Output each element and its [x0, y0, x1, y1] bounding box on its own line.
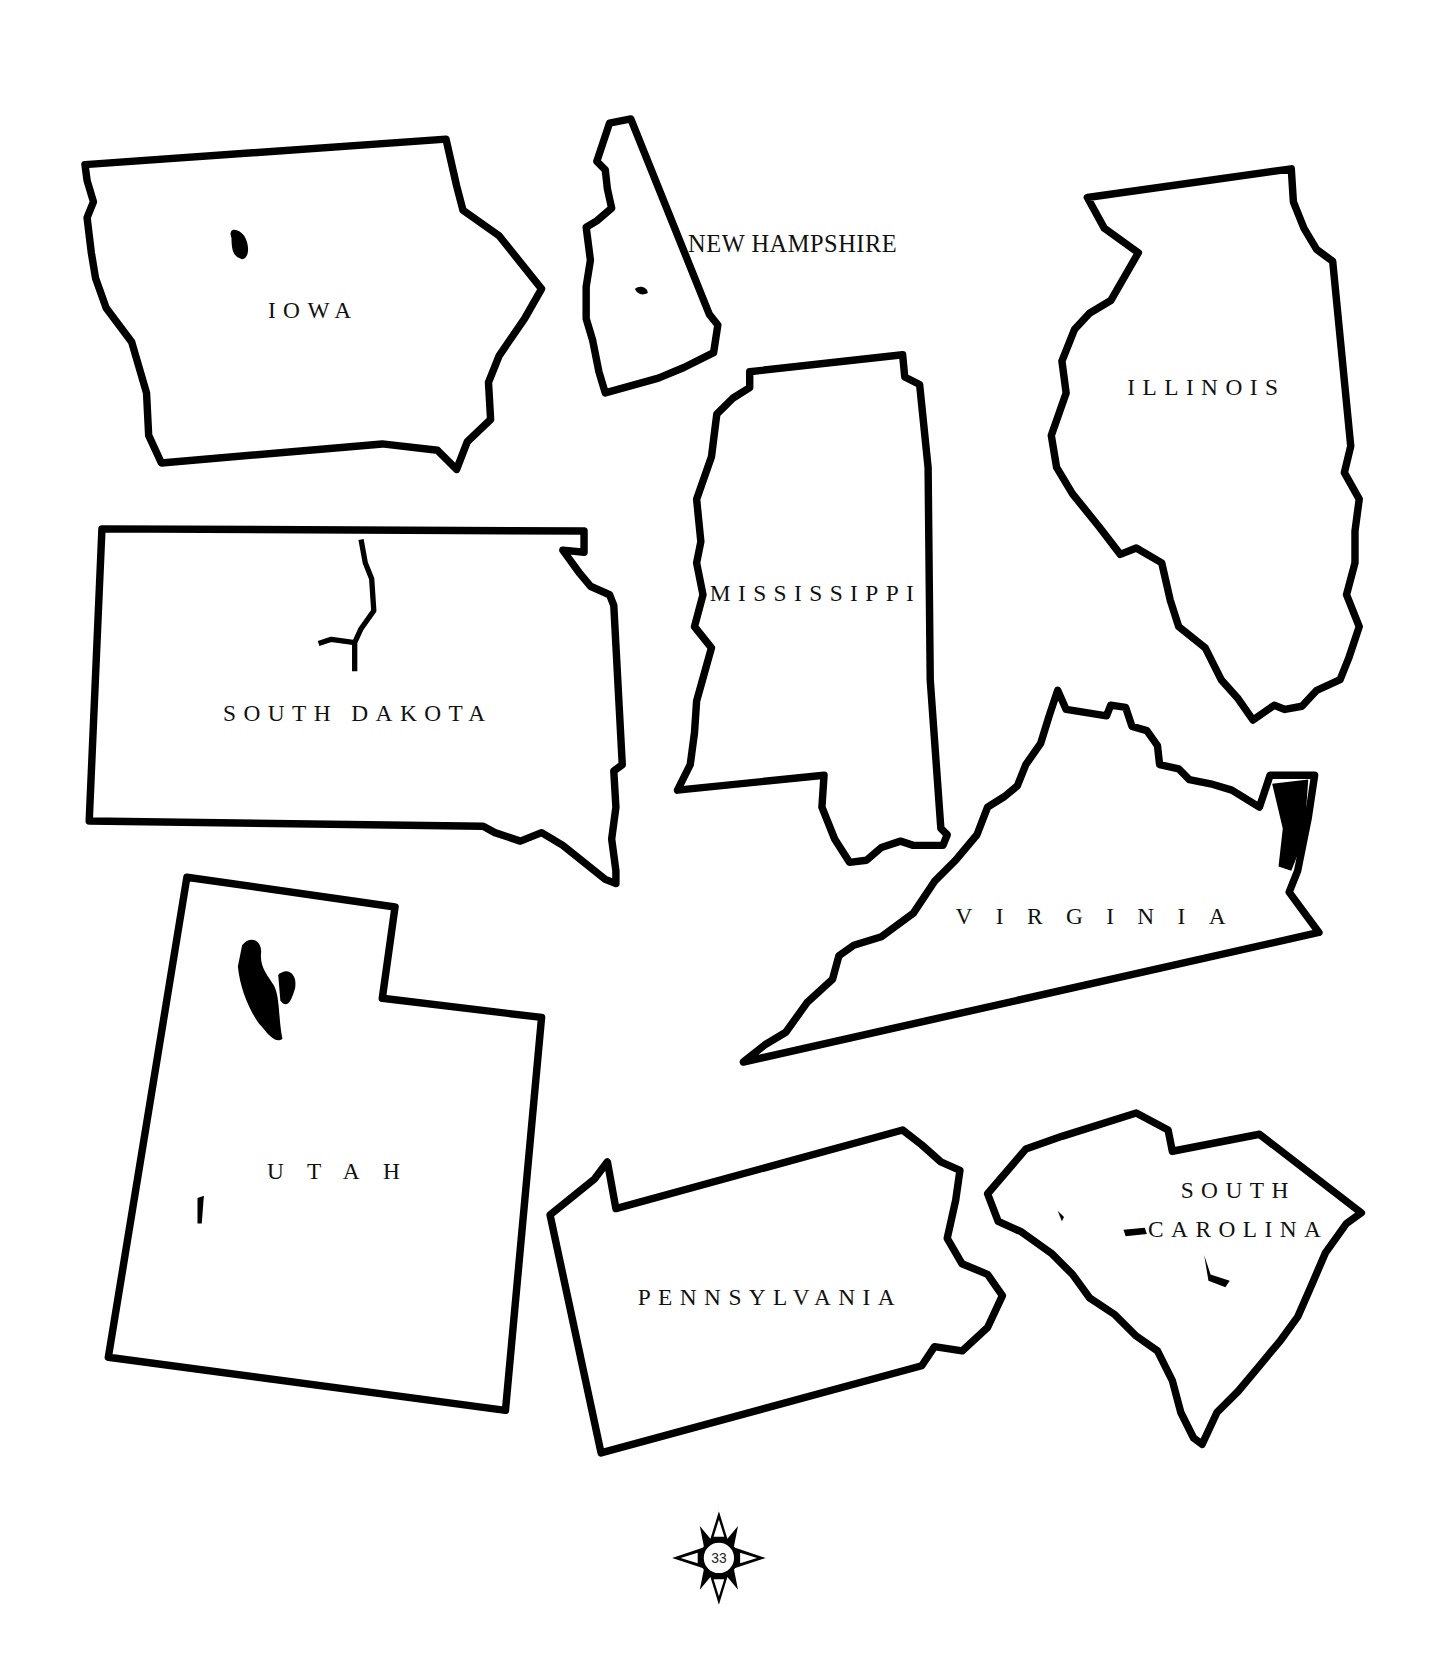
state-mississippi: MISSISSIPPI [677, 355, 947, 863]
state-utah: UTAH [108, 877, 541, 1410]
label-pennsylvania: PENNSYLVANIA [638, 1284, 902, 1310]
state-pennsylvania: PENNSYLVANIA [550, 1130, 1002, 1453]
label-virginia: VIRGINIA [956, 903, 1249, 929]
label-south-carolina-line1: SOUTH [1181, 1177, 1296, 1203]
state-outline-map: IOWA NEW HAMPSHIRE ILLINOIS MISSISSIPPI … [0, 0, 1441, 1661]
label-utah: UTAH [267, 1158, 423, 1184]
state-south-carolina: SOUTH CAROLINA [988, 1113, 1362, 1444]
label-new-hampshire: NEW HAMPSHIRE [688, 230, 897, 257]
label-iowa: IOWA [268, 297, 359, 323]
state-illinois: ILLINOIS [1051, 169, 1359, 720]
compass-rose-icon: 33 [672, 1511, 765, 1604]
label-south-carolina-line2: CAROLINA [1148, 1216, 1328, 1242]
state-south-dakota: SOUTH DAKOTA [89, 529, 622, 884]
label-mississippi: MISSISSIPPI [710, 580, 922, 606]
label-south-dakota: SOUTH DAKOTA [223, 700, 493, 726]
state-iowa: IOWA [85, 139, 542, 469]
page-number: 33 [711, 1551, 727, 1566]
label-illinois: ILLINOIS [1127, 374, 1285, 400]
state-new-hampshire: NEW HAMPSHIRE [586, 119, 897, 393]
